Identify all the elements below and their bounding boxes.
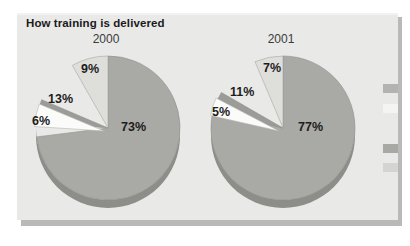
panel-top-highlight <box>17 13 398 15</box>
panel-shadow-bottom <box>21 220 402 226</box>
pie-2001-label-11: 11% <box>230 85 254 99</box>
pie-2000-label-73: 73% <box>121 120 146 134</box>
pie-chart-2001: 77% 11% 7% 5% <box>208 52 358 212</box>
pie-2001-label-5: 5% <box>212 105 230 119</box>
legend-swatch-3 <box>383 144 398 153</box>
pie-2001-label-7: 7% <box>263 61 281 75</box>
pie-2001-svg <box>208 52 358 212</box>
pie-2000-label-9: 9% <box>81 62 99 76</box>
pie-2000-svg <box>33 52 183 212</box>
chart-title-2001: 2001 <box>253 32 309 46</box>
pie-chart-2000: 73% 13% 9% 6% <box>33 52 183 212</box>
page-margin-top <box>0 0 410 13</box>
chart-title-2000: 2000 <box>78 32 134 46</box>
legend-swatch-1 <box>383 84 398 93</box>
legend-swatch-4 <box>383 163 398 172</box>
legend-swatch-2 <box>383 104 398 113</box>
page-title: How training is delivered <box>26 17 165 29</box>
page-margin-bottom <box>0 228 410 246</box>
pie-2000-label-13: 13% <box>48 92 73 106</box>
page-margin-left <box>0 0 17 246</box>
pie-2000-label-6: 6% <box>32 114 50 128</box>
figure-root: How training is delivered 2000 2001 73% … <box>0 0 410 246</box>
panel-shadow-right <box>398 17 402 223</box>
pie-2001-label-77: 77% <box>298 120 323 134</box>
